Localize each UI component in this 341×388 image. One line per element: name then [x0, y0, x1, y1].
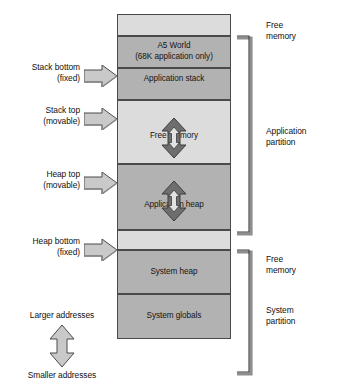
label-stack-top-line1: Stack top — [0, 105, 80, 116]
memory-block-system-heap: System heap — [117, 250, 231, 294]
heap-top-pointer-arrow — [84, 172, 118, 194]
label-free-memory-lower-line1: Free — [266, 254, 338, 265]
label-heap-top-line2: (movable) — [0, 180, 80, 191]
label-heap-bottom: Heap bottom (fixed) — [0, 236, 80, 259]
label-free-memory-top-line1: Free — [266, 20, 338, 31]
label-application-partition-line2: partition — [266, 137, 338, 148]
label-free-memory-lower-line2: memory — [266, 265, 338, 276]
application-stack-label: Application stack — [144, 74, 205, 85]
application-partition-bracket — [236, 34, 258, 238]
address-direction-double-arrow — [49, 325, 75, 367]
label-larger-addresses: Larger addresses — [2, 310, 122, 321]
label-stack-top-line2: (movable) — [0, 116, 80, 127]
memory-block-free-memory-lower — [117, 230, 231, 250]
memory-block-a5-world: A5 World (68K application only) — [117, 36, 231, 68]
free-memory-middle-label: Free memory — [150, 131, 198, 142]
memory-block-application-heap: Application heap — [117, 164, 231, 230]
label-heap-bottom-line1: Heap bottom — [0, 236, 80, 247]
label-stack-bottom: Stack bottom (fixed) — [0, 62, 80, 85]
memory-block-system-globals: System globals — [117, 294, 231, 339]
label-system-partition-line1: System — [266, 305, 338, 316]
system-heap-label: System heap — [150, 267, 197, 278]
label-free-memory-top-line2: memory — [266, 31, 338, 42]
stack-bottom-pointer-arrow — [84, 65, 118, 87]
label-application-partition-line1: Application — [266, 126, 338, 137]
label-free-memory-top: Free memory — [266, 20, 338, 43]
label-smaller-addresses: Smaller addresses — [2, 370, 122, 381]
label-stack-bottom-line2: (fixed) — [0, 73, 80, 84]
system-partition-bracket — [236, 248, 258, 378]
memory-block-free-memory-middle: Free memory — [117, 100, 231, 164]
label-system-partition-line2: partition — [266, 316, 338, 327]
label-stack-bottom-line1: Stack bottom — [0, 62, 80, 73]
heap-bottom-pointer-arrow — [84, 239, 118, 261]
memory-column: A5 World (68K application only) Applicat… — [117, 14, 231, 375]
label-system-partition: System partition — [266, 305, 338, 328]
memory-map-diagram: A5 World (68K application only) Applicat… — [0, 0, 341, 388]
label-heap-top-line1: Heap top — [0, 169, 80, 180]
stack-top-pointer-arrow — [84, 108, 118, 130]
label-free-memory-lower: Free memory — [266, 254, 338, 277]
label-application-partition: Application partition — [266, 126, 338, 149]
a5-world-label-line1: A5 World — [157, 41, 190, 52]
a5-world-label-line2: (68K application only) — [135, 52, 213, 63]
label-heap-bottom-line2: (fixed) — [0, 247, 80, 258]
label-heap-top: Heap top (movable) — [0, 169, 80, 192]
label-stack-top: Stack top (movable) — [0, 105, 80, 128]
system-globals-label: System globals — [147, 311, 202, 322]
application-heap-label: Application heap — [144, 200, 204, 211]
memory-block-free-memory-top — [117, 14, 231, 36]
memory-block-application-stack: Application stack — [117, 68, 231, 100]
